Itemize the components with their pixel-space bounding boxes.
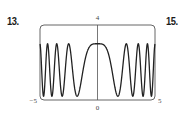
x-tick-label-max: 5	[158, 97, 162, 105]
function-plot: 4 −5 5 0	[0, 0, 182, 114]
y-tick-label-max: 4	[96, 14, 100, 22]
x-tick-label-min: −5	[30, 97, 38, 105]
x-tick-label-origin: 0	[96, 104, 100, 112]
